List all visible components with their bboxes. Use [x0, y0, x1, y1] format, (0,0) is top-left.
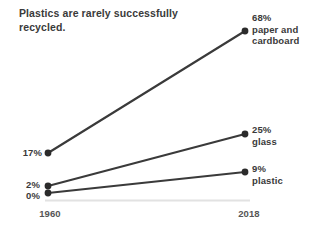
chart-container: Plastics are rarely successfully recycle…	[0, 0, 316, 232]
series-line-plastic	[48, 172, 245, 193]
start-label-paper-and-cardboard: 17%	[0, 147, 42, 158]
end-label-glass: 25% glass	[252, 124, 314, 147]
marker-plastic-2018	[242, 169, 249, 176]
x-tick-label-2018: 2018	[229, 208, 269, 219]
end-label-plastic: 9% plastic	[252, 163, 314, 186]
series-line-paper-and-cardboard	[48, 31, 245, 153]
marker-glass-1960	[45, 183, 52, 190]
start-label-plastic: 0%	[0, 190, 40, 201]
marker-paper-and-cardboard-2018	[242, 28, 249, 35]
marker-glass-2018	[242, 131, 249, 138]
marker-paper-and-cardboard-1960	[45, 150, 52, 157]
marker-plastic-1960	[45, 190, 52, 197]
end-label-paper-and-cardboard: 68% paper and cardboard	[252, 12, 316, 47]
start-label-glass: 2%	[0, 179, 40, 190]
x-tick-label-1960: 1960	[30, 208, 70, 219]
series-line-glass	[48, 134, 245, 186]
